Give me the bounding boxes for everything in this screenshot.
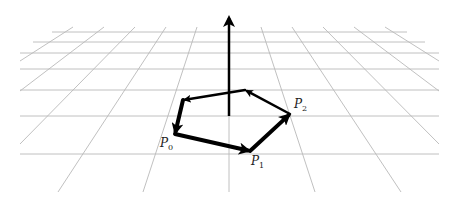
grid-line-converging — [354, 27, 439, 91]
grid-line-converging — [20, 27, 104, 91]
polygon-edge-arrow — [175, 134, 248, 151]
grid-line-converging — [58, 27, 166, 192]
label-p0: P0 — [159, 136, 173, 152]
grid-line-converging — [323, 27, 439, 144]
directed-polygon — [175, 90, 290, 151]
polygon-edge-arrow — [185, 90, 245, 100]
grid-line-converging — [20, 27, 135, 144]
grid-line-converging — [20, 27, 73, 61]
perspective-polygon-diagram: P0 P1 P2 — [0, 0, 458, 202]
label-p2: P2 — [293, 97, 307, 113]
polygon-edge-arrow — [250, 115, 289, 151]
grid-line-converging — [292, 27, 401, 192]
grid-line-converging — [143, 27, 197, 192]
label-p1: P1 — [250, 154, 264, 170]
